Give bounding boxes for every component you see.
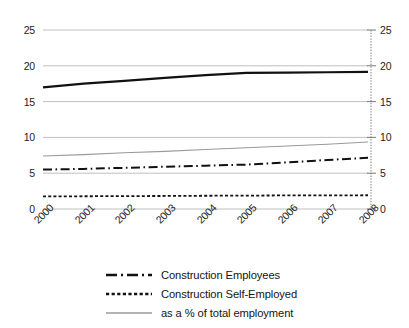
series-line-construction-employees xyxy=(43,158,368,170)
y-axis-left-tick-10: 10 xyxy=(9,132,35,143)
y-axis-right-tick-20: 20 xyxy=(380,61,406,72)
line-chart: 25 20 15 10 5 0 25 20 15 10 5 0 20002001… xyxy=(0,0,409,328)
y-axis-right-tick-5: 5 xyxy=(380,168,406,179)
legend-label-percent-of-total-employment: as a % of total employment xyxy=(161,307,293,319)
legend-item-percent-of-total-employment: as a % of total employment xyxy=(105,303,405,322)
y-axis-left-tick-0: 0 xyxy=(9,204,35,215)
gray-solid-line-swatch xyxy=(105,307,153,319)
series-line-as-a---of-total-employment xyxy=(43,142,368,156)
series-line-construction-total xyxy=(43,72,368,87)
dotted-line-swatch xyxy=(105,288,153,300)
series-group xyxy=(43,72,368,197)
y-axis-right-tick-10: 10 xyxy=(380,132,406,143)
y-axis-left-tick-15: 15 xyxy=(9,97,35,108)
y-axis-right-tick-0: 0 xyxy=(380,204,406,215)
y-axis-left-tick-25: 25 xyxy=(9,25,35,36)
gridlines xyxy=(43,30,368,209)
y-axis-left-tick-20: 20 xyxy=(9,61,35,72)
chart-legend: Construction Employees Construction Self… xyxy=(105,265,405,322)
legend-label-construction-employees: Construction Employees xyxy=(161,269,280,281)
legend-label-construction-self-employed: Construction Self-Employed xyxy=(161,288,297,300)
legend-item-construction-employees: Construction Employees xyxy=(105,265,405,284)
right-axis-spine xyxy=(367,30,376,210)
y-axis-right-tick-15: 15 xyxy=(380,97,406,108)
y-axis-right-tick-25: 25 xyxy=(380,25,406,36)
series-line-construction-self-employed xyxy=(43,195,368,196)
dash-dot-line-swatch xyxy=(105,269,153,281)
legend-item-construction-self-employed: Construction Self-Employed xyxy=(105,284,405,303)
y-axis-left-tick-5: 5 xyxy=(9,168,35,179)
